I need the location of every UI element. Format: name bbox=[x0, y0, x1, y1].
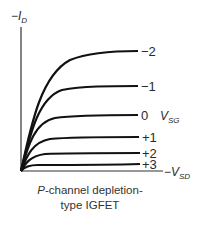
curve-label-plus-3: +3 bbox=[142, 158, 157, 171]
x-axis-label: −VSD bbox=[164, 166, 190, 181]
x-axis-sign: − bbox=[164, 165, 171, 179]
x-axis-subscript: SD bbox=[179, 172, 190, 181]
curve-label-plus-1: +1 bbox=[142, 131, 157, 144]
curve-label-minus-2: −2 bbox=[141, 45, 156, 58]
curve-label-minus-1: −1 bbox=[141, 80, 156, 93]
curve-vsg-plus-2 bbox=[21, 153, 140, 171]
y-axis-subscript: D bbox=[21, 16, 27, 25]
y-axis-sign: − bbox=[11, 9, 18, 23]
param-subscript: SG bbox=[168, 116, 180, 125]
caption-line-1-text: -channel depletion- bbox=[45, 184, 143, 196]
param-label-vsg: VSG bbox=[160, 110, 180, 125]
caption-italic-p: P bbox=[37, 184, 45, 196]
curve-label-0: 0 bbox=[141, 109, 148, 122]
caption-line-2: type IGFET bbox=[0, 198, 180, 212]
curve-vsg-plus-3 bbox=[21, 164, 140, 171]
param-symbol: V bbox=[160, 109, 168, 123]
caption-line-1: P-channel depletion- bbox=[0, 183, 180, 197]
x-axis-symbol: V bbox=[171, 165, 179, 179]
y-axis-label: −ID bbox=[11, 10, 27, 25]
